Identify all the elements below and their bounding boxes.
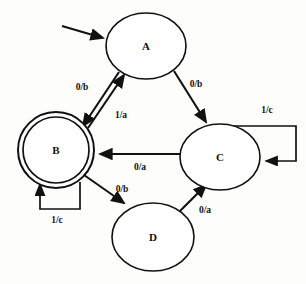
state-label-a: A bbox=[142, 40, 150, 52]
transition-label-c-to-b: 0/a bbox=[134, 162, 146, 172]
transition-label-d-to-c: 0/a bbox=[199, 205, 211, 215]
transition-a-to-b[interactable]: 0/b bbox=[76, 72, 119, 126]
transition-label-b-to-d: 0/b bbox=[116, 184, 129, 194]
transition-c-to-b[interactable]: 0/a bbox=[100, 154, 180, 172]
state-node-a[interactable]: A bbox=[106, 13, 186, 79]
transition-label-a-to-c: 0/b bbox=[190, 79, 203, 89]
transition-b-to-a[interactable]: 1/a bbox=[88, 75, 127, 128]
transition-label-b-to-a: 1/a bbox=[115, 110, 127, 120]
state-label-b: B bbox=[52, 144, 60, 156]
transition-a-to-c[interactable]: 0/b bbox=[174, 71, 206, 122]
state-label-c: C bbox=[216, 151, 224, 163]
state-label-d: D bbox=[149, 231, 157, 243]
start-arrow bbox=[62, 26, 103, 38]
state-machine-diagram: 0/b 0/b 1/a 0/a 0/b 0/a 1/ bbox=[0, 0, 306, 284]
transition-d-to-c[interactable]: 0/a bbox=[180, 185, 211, 215]
transition-b-to-d[interactable]: 0/b bbox=[84, 175, 128, 203]
transition-label-a-to-b: 0/b bbox=[76, 82, 89, 92]
self-loop-label-b: 1/c bbox=[51, 215, 63, 225]
state-node-b[interactable]: B bbox=[18, 112, 94, 188]
state-node-c[interactable]: C bbox=[180, 124, 260, 190]
state-node-d[interactable]: D bbox=[112, 203, 194, 271]
self-loop-label-c: 1/c bbox=[261, 105, 273, 115]
diagram-canvas: 0/b 0/b 1/a 0/a 0/b 0/a 1/ bbox=[0, 0, 306, 284]
